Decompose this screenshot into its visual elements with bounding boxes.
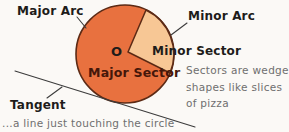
sector-note-line-1: Sectors are wedge	[186, 62, 289, 79]
minor-arc-label: Minor Arc	[188, 10, 255, 22]
major-arc-pointer-line	[77, 17, 86, 28]
major-arc-label: Major Arc	[17, 5, 84, 17]
sector-definition-note: Sectors are wedge shapes like slices of …	[186, 62, 289, 112]
tangent-definition-note: ...a line just touching the circle	[2, 118, 174, 129]
tangent-pointer-line	[47, 87, 62, 98]
circle-parts-diagram: Major Arc Minor Arc O Minor Sector Major…	[0, 0, 289, 132]
minor-sector-label: Minor Sector	[152, 45, 241, 57]
major-sector-label: Major Sector	[88, 67, 180, 80]
minor-arc-pointer-line	[171, 23, 187, 35]
tangent-label: Tangent	[10, 99, 66, 111]
sector-note-line-3: of pizza	[186, 95, 289, 112]
circle-center-label: O	[111, 45, 122, 58]
sector-note-line-2: shapes like slices	[186, 79, 289, 96]
